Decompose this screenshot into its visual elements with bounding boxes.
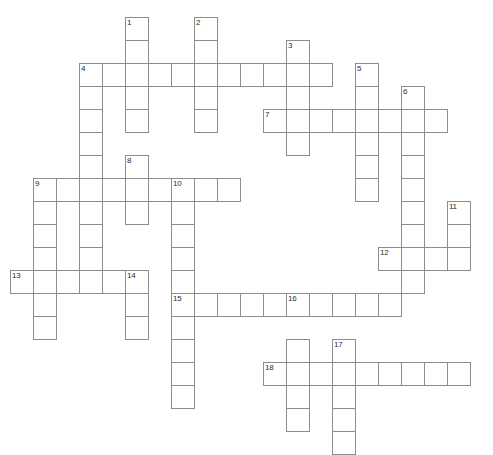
crossword-cell[interactable] xyxy=(355,362,379,386)
crossword-cell[interactable] xyxy=(171,201,195,225)
crossword-cell[interactable] xyxy=(286,408,310,432)
crossword-cell[interactable] xyxy=(125,293,149,317)
crossword-cell[interactable] xyxy=(125,86,149,110)
crossword-cell[interactable] xyxy=(332,385,356,409)
crossword-cell[interactable] xyxy=(125,109,149,133)
crossword-cell[interactable] xyxy=(79,155,103,179)
crossword-cell[interactable] xyxy=(33,201,57,225)
crossword-cell[interactable] xyxy=(102,178,126,202)
crossword-cell[interactable] xyxy=(148,63,172,87)
crossword-cell[interactable] xyxy=(401,270,425,294)
crossword-cell[interactable] xyxy=(79,270,103,294)
crossword-cell[interactable] xyxy=(424,247,448,271)
crossword-cell[interactable] xyxy=(332,431,356,455)
crossword-cell[interactable] xyxy=(286,362,310,386)
crossword-cell[interactable] xyxy=(171,270,195,294)
crossword-cell[interactable] xyxy=(447,224,471,248)
crossword-cell[interactable] xyxy=(286,385,310,409)
crossword-cell[interactable] xyxy=(355,155,379,179)
crossword-cell[interactable] xyxy=(355,109,379,133)
crossword-cell[interactable] xyxy=(217,293,241,317)
crossword-cell[interactable] xyxy=(171,339,195,363)
crossword-cell[interactable] xyxy=(148,178,172,202)
crossword-cell[interactable] xyxy=(79,224,103,248)
crossword-cell[interactable] xyxy=(171,385,195,409)
crossword-cell[interactable] xyxy=(56,270,80,294)
crossword-cell[interactable] xyxy=(125,270,149,294)
crossword-cell[interactable] xyxy=(355,63,379,87)
crossword-cell[interactable] xyxy=(401,201,425,225)
crossword-cell[interactable] xyxy=(171,362,195,386)
crossword-cell[interactable] xyxy=(33,224,57,248)
crossword-cell[interactable] xyxy=(332,362,356,386)
crossword-cell[interactable] xyxy=(332,408,356,432)
crossword-cell[interactable] xyxy=(447,247,471,271)
crossword-cell[interactable] xyxy=(286,40,310,64)
crossword-cell[interactable] xyxy=(286,293,310,317)
crossword-cell[interactable] xyxy=(125,201,149,225)
crossword-cell[interactable] xyxy=(378,362,402,386)
crossword-cell[interactable] xyxy=(378,109,402,133)
crossword-cell[interactable] xyxy=(102,270,126,294)
crossword-cell[interactable] xyxy=(309,362,333,386)
crossword-cell[interactable] xyxy=(401,132,425,156)
crossword-cell[interactable] xyxy=(33,316,57,340)
crossword-cell[interactable] xyxy=(125,40,149,64)
crossword-cell[interactable] xyxy=(332,293,356,317)
crossword-cell[interactable] xyxy=(286,63,310,87)
crossword-cell[interactable] xyxy=(401,109,425,133)
crossword-cell[interactable] xyxy=(401,155,425,179)
crossword-cell[interactable] xyxy=(171,63,195,87)
crossword-cell[interactable] xyxy=(355,293,379,317)
crossword-cell[interactable] xyxy=(263,109,287,133)
crossword-cell[interactable] xyxy=(309,109,333,133)
crossword-cell[interactable] xyxy=(194,40,218,64)
crossword-cell[interactable] xyxy=(79,86,103,110)
crossword-cell[interactable] xyxy=(332,109,356,133)
crossword-cell[interactable] xyxy=(79,201,103,225)
crossword-cell[interactable] xyxy=(33,178,57,202)
crossword-cell[interactable] xyxy=(447,362,471,386)
crossword-cell[interactable] xyxy=(125,155,149,179)
crossword-cell[interactable] xyxy=(56,178,80,202)
crossword-cell[interactable] xyxy=(401,362,425,386)
crossword-cell[interactable] xyxy=(79,63,103,87)
crossword-cell[interactable] xyxy=(102,63,126,87)
crossword-cell[interactable] xyxy=(33,293,57,317)
crossword-cell[interactable] xyxy=(125,316,149,340)
crossword-cell[interactable] xyxy=(355,86,379,110)
crossword-cell[interactable] xyxy=(217,178,241,202)
crossword-cell[interactable] xyxy=(240,293,264,317)
crossword-cell[interactable] xyxy=(355,178,379,202)
crossword-cell[interactable] xyxy=(286,109,310,133)
crossword-cell[interactable] xyxy=(125,63,149,87)
crossword-cell[interactable] xyxy=(217,63,241,87)
crossword-cell[interactable] xyxy=(171,224,195,248)
crossword-cell[interactable] xyxy=(171,293,195,317)
crossword-cell[interactable] xyxy=(194,293,218,317)
crossword-cell[interactable] xyxy=(79,132,103,156)
crossword-cell[interactable] xyxy=(447,201,471,225)
crossword-cell[interactable] xyxy=(378,247,402,271)
crossword-cell[interactable] xyxy=(240,63,264,87)
crossword-cell[interactable] xyxy=(286,132,310,156)
crossword-cell[interactable] xyxy=(401,86,425,110)
crossword-cell[interactable] xyxy=(194,86,218,110)
crossword-cell[interactable] xyxy=(263,293,287,317)
crossword-cell[interactable] xyxy=(10,270,34,294)
crossword-cell[interactable] xyxy=(194,17,218,41)
crossword-cell[interactable] xyxy=(194,109,218,133)
crossword-cell[interactable] xyxy=(401,224,425,248)
crossword-cell[interactable] xyxy=(309,293,333,317)
crossword-cell[interactable] xyxy=(424,109,448,133)
crossword-cell[interactable] xyxy=(125,17,149,41)
crossword-cell[interactable] xyxy=(194,178,218,202)
crossword-cell[interactable] xyxy=(79,109,103,133)
crossword-cell[interactable] xyxy=(332,339,356,363)
crossword-cell[interactable] xyxy=(286,339,310,363)
crossword-cell[interactable] xyxy=(355,132,379,156)
crossword-cell[interactable] xyxy=(33,247,57,271)
crossword-cell[interactable] xyxy=(125,178,149,202)
crossword-cell[interactable] xyxy=(194,63,218,87)
